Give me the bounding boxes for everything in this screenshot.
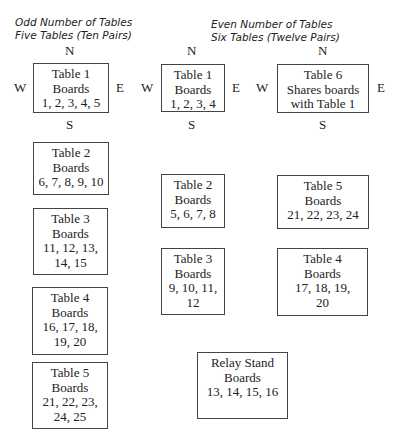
even-title-line2: Six Tables (Twelve Pairs) [211, 31, 340, 43]
even-table-2: Table 2 Boards 5, 6, 7, 8 [161, 174, 225, 228]
table-label: Table 2 [52, 146, 90, 161]
boards-list-cont: 20 [316, 296, 329, 311]
odd-title-line2: Five Tables (Ten Pairs) [15, 29, 132, 41]
even-t6-west: W [256, 81, 268, 95]
boards-list: 16, 17, 18, [42, 320, 97, 335]
even-t1-west: W [141, 81, 153, 95]
boards-list: 9, 10, 11, [169, 281, 217, 296]
boards-label: Boards [175, 193, 212, 208]
boards-list: 13, 14, 15, 16 [207, 385, 279, 400]
boards-list-cont: 24, 25 [54, 410, 87, 425]
boards-label: Boards [52, 306, 89, 321]
table-label: Table 5 [51, 366, 89, 381]
boards-list-cont: 14, 15 [54, 256, 87, 271]
odd-t1-east: E [116, 81, 124, 95]
even-t1-north: N [187, 44, 196, 58]
odd-table-4: Table 4 Boards 16, 17, 18, 19, 20 [32, 287, 108, 355]
odd-title: Odd Number of Tables Five Tables (Ten Pa… [15, 16, 132, 42]
even-table-3: Table 3 Boards 9, 10, 11, 12 [161, 248, 225, 315]
relay-label: Relay Stand [211, 356, 274, 371]
table-label: Table 3 [51, 212, 89, 227]
even-t6-south: S [319, 118, 326, 132]
even-table-6: Table 6 Shares boards with Table 1 [277, 64, 369, 113]
odd-t1-south: S [66, 118, 73, 132]
relay-stand: Relay Stand Boards 13, 14, 15, 16 [197, 352, 288, 419]
even-table-1: Table 1 Boards 1, 2, 3, 4 [161, 64, 225, 112]
even-t1-south: S [188, 118, 195, 132]
even-t6-east: E [377, 81, 385, 95]
table-label: Table 4 [303, 252, 341, 267]
table-label: Table 6 [304, 68, 342, 83]
boards-list: 1, 2, 3, 4, 5 [42, 96, 101, 111]
even-table-5: Table 5 Boards 21, 22, 23, 24 [277, 175, 369, 229]
boards-list: 6, 7, 8, 9, 10 [39, 175, 104, 190]
boards-list: 21, 22, 23, 24 [287, 208, 359, 223]
even-title-line1: Even Number of Tables [211, 18, 333, 30]
shares-with: with Table 1 [291, 97, 356, 112]
odd-title-line1: Odd Number of Tables [15, 16, 132, 28]
boards-label: Boards [53, 82, 90, 97]
boards-list: 11, 12, 13, [43, 241, 98, 256]
boards-label: Boards [52, 381, 89, 396]
boards-list: 1, 2, 3, 4 [170, 97, 216, 112]
table-label: Table 2 [174, 178, 212, 193]
boards-list-cont: 19, 20 [54, 335, 87, 350]
odd-table-2: Table 2 Boards 6, 7, 8, 9, 10 [33, 142, 109, 195]
odd-table-1: Table 1 Boards 1, 2, 3, 4, 5 [33, 63, 109, 113]
table-label: Table 3 [174, 252, 212, 267]
boards-label: Boards [52, 227, 89, 242]
odd-table-3: Table 3 Boards 11, 12, 13, 14, 15 [33, 208, 108, 275]
table-label: Table 4 [51, 291, 89, 306]
odd-table-5: Table 5 Boards 21, 22, 23, 24, 25 [32, 362, 108, 429]
boards-list: 5, 6, 7, 8 [170, 207, 216, 222]
even-table-4: Table 4 Boards 17, 18, 19, 20 [277, 248, 368, 316]
table-label: Table 1 [52, 67, 90, 82]
boards-label: Boards [175, 83, 212, 98]
boards-label: Boards [53, 161, 90, 176]
boards-label: Boards [305, 194, 342, 209]
boards-label: Boards [175, 267, 212, 282]
boards-list: 21, 22, 23, [42, 395, 97, 410]
shares-label: Shares boards [287, 83, 360, 98]
boards-label: Boards [224, 371, 261, 386]
table-label: Table 1 [174, 68, 212, 83]
table-label: Table 5 [304, 179, 342, 194]
odd-t1-west: W [14, 81, 26, 95]
even-t1-east: E [232, 81, 240, 95]
even-t6-north: N [318, 44, 327, 58]
odd-t1-north: N [65, 44, 74, 58]
even-title: Even Number of Tables Six Tables (Twelve… [211, 18, 340, 44]
boards-list: 17, 18, 19, [295, 281, 350, 296]
boards-list-cont: 12 [187, 296, 200, 311]
boards-label: Boards [304, 267, 341, 282]
